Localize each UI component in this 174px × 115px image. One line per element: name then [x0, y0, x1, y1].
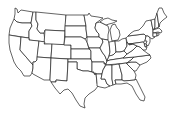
- state-ME: [157, 8, 167, 27]
- state-MT: [36, 12, 66, 33]
- state-KS: [71, 49, 91, 59]
- state-MI-lower: [110, 24, 120, 41]
- state-WA: [14, 8, 33, 23]
- state-ND: [65, 15, 86, 26]
- us-states-outline-map: [0, 0, 174, 115]
- state-WY: [44, 30, 65, 45]
- state-CO: [51, 44, 71, 59]
- state-CT: [153, 33, 157, 37]
- state-NM: [50, 58, 68, 82]
- map-canvas: [0, 0, 174, 115]
- state-RI: [157, 33, 159, 36]
- state-FL: [115, 79, 145, 101]
